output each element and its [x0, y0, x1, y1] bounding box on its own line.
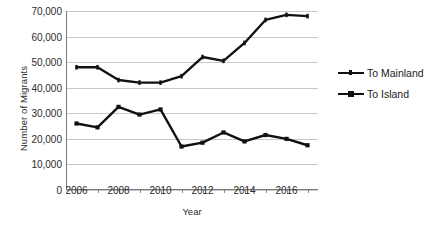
series-line-to-island [77, 107, 308, 147]
y-axis-tick-labels: 010,00020,00030,00040,00050,00060,00070,… [8, 0, 62, 235]
y-tick-label: 30,000 [10, 108, 62, 119]
data-point-marker [74, 121, 78, 125]
data-point-marker [306, 14, 308, 19]
data-point-marker [95, 125, 99, 129]
data-point-marker [243, 41, 245, 46]
x-tick-mark-minor [308, 190, 309, 193]
x-axis-title: Year [66, 206, 318, 217]
legend-label-to-island: To Island [367, 88, 409, 100]
data-point-marker [180, 74, 182, 79]
data-point-marker [221, 130, 225, 134]
y-tick-label: 70,000 [10, 6, 62, 17]
y-tick-label: 10,000 [10, 159, 62, 170]
y-tick-label: 20,000 [10, 133, 62, 144]
data-point-marker [117, 78, 119, 83]
data-point-marker [264, 18, 266, 23]
data-point-marker [305, 143, 309, 147]
data-point-marker [137, 112, 141, 116]
y-tick-label: 0 [10, 185, 62, 196]
data-point-marker [222, 59, 224, 64]
data-point-marker [201, 55, 203, 60]
legend-item-to-mainland[interactable]: To Mainland [338, 62, 433, 83]
data-point-marker [138, 80, 140, 85]
legend-marker-to-mainland [338, 68, 364, 78]
x-tick-label: 2014 [225, 185, 265, 196]
y-tick-label: 60,000 [10, 31, 62, 42]
data-point-marker [242, 139, 246, 143]
legend-label-to-mainland: To Mainland [367, 67, 424, 79]
legend-marker-to-island [338, 89, 364, 99]
plot-area [66, 11, 318, 190]
legend-item-to-island[interactable]: To Island [338, 83, 433, 104]
x-tick-label: 2006 [57, 185, 97, 196]
data-point-marker [75, 65, 77, 70]
data-point-marker [285, 13, 287, 18]
series-line-to-mainland [77, 15, 308, 83]
series-layer [66, 11, 318, 190]
chart-legend: To Mainland To Island [338, 62, 433, 104]
x-tick-label: 2010 [141, 185, 181, 196]
data-point-marker [284, 137, 288, 141]
data-point-marker [96, 65, 98, 70]
data-point-marker [179, 144, 183, 148]
data-point-marker [116, 105, 120, 109]
x-tick-label: 2008 [99, 185, 139, 196]
data-point-marker [158, 107, 162, 111]
y-tick-label: 50,000 [10, 57, 62, 68]
data-point-marker [263, 133, 267, 137]
x-tick-label: 2012 [183, 185, 223, 196]
x-tick-label: 2016 [267, 185, 307, 196]
y-tick-label: 40,000 [10, 82, 62, 93]
chart-container: Number of Migrants 010,00020,00030,00040… [0, 0, 433, 235]
data-point-marker [200, 141, 204, 145]
data-point-marker [159, 80, 161, 85]
